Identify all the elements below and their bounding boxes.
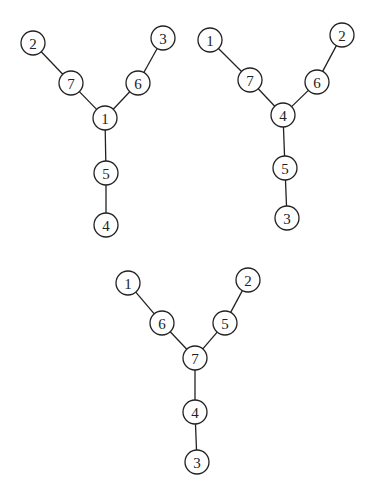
node-6: 6	[150, 311, 174, 335]
node-6: 6	[305, 70, 329, 94]
edge-5-3	[285, 180, 286, 206]
node-label: 4	[279, 108, 287, 124]
node-label: 3	[159, 31, 167, 47]
node-3: 3	[275, 206, 299, 230]
edge-6-1	[113, 92, 130, 110]
node-7: 7	[183, 346, 207, 370]
node-2: 2	[236, 268, 260, 292]
edge-7-4	[258, 89, 275, 107]
node-1: 1	[116, 271, 140, 295]
node-label: 1	[101, 111, 109, 127]
edge-6-7	[170, 332, 187, 350]
edge-2-5	[231, 291, 243, 313]
node-label: 5	[281, 161, 289, 177]
node-2: 2	[21, 31, 45, 55]
node-label: 7	[67, 76, 75, 92]
node-5: 5	[213, 311, 237, 335]
tree-graph-c: 1625743	[116, 268, 260, 474]
node-2: 2	[330, 23, 354, 47]
node-4: 4	[271, 103, 295, 127]
edge-4-3	[195, 424, 196, 450]
tree-graph-a: 2736154	[21, 26, 175, 237]
node-7: 7	[238, 68, 262, 92]
node-label: 6	[313, 75, 321, 91]
edge-4-5	[283, 127, 284, 156]
edge-3-6	[144, 48, 157, 72]
diagram-canvas: 2736154 1726453 1625743	[0, 0, 375, 499]
tree-graph-b: 1726453	[198, 23, 354, 230]
edge-1-7	[218, 48, 241, 71]
node-7: 7	[59, 71, 83, 95]
edge-5-7	[203, 332, 217, 349]
node-label: 6	[134, 76, 142, 92]
node-5: 5	[273, 156, 297, 180]
node-label: 6	[158, 316, 166, 332]
edge-2-7	[41, 52, 62, 75]
edge-2-6	[323, 46, 337, 72]
node-label: 2	[29, 36, 37, 52]
node-label: 5	[221, 316, 229, 332]
edge-1-6	[136, 292, 154, 314]
node-4: 4	[183, 400, 207, 424]
node-5: 5	[94, 161, 118, 185]
node-label: 3	[193, 455, 201, 471]
node-1: 1	[93, 106, 117, 130]
node-label: 2	[338, 28, 346, 44]
node-4: 4	[94, 213, 118, 237]
edge-7-1	[79, 92, 96, 110]
node-label: 7	[191, 351, 199, 367]
node-label: 4	[191, 405, 199, 421]
node-label: 3	[283, 211, 291, 227]
edge-1-5	[105, 130, 106, 161]
edge-6-4	[292, 90, 309, 106]
node-label: 4	[102, 218, 110, 234]
node-label: 7	[246, 73, 254, 89]
node-label: 1	[124, 276, 132, 292]
node-label: 5	[102, 166, 110, 182]
node-3: 3	[151, 26, 175, 50]
node-3: 3	[185, 450, 209, 474]
node-1: 1	[198, 28, 222, 52]
node-label: 2	[244, 273, 252, 289]
node-label: 1	[206, 33, 214, 49]
node-6: 6	[126, 71, 150, 95]
